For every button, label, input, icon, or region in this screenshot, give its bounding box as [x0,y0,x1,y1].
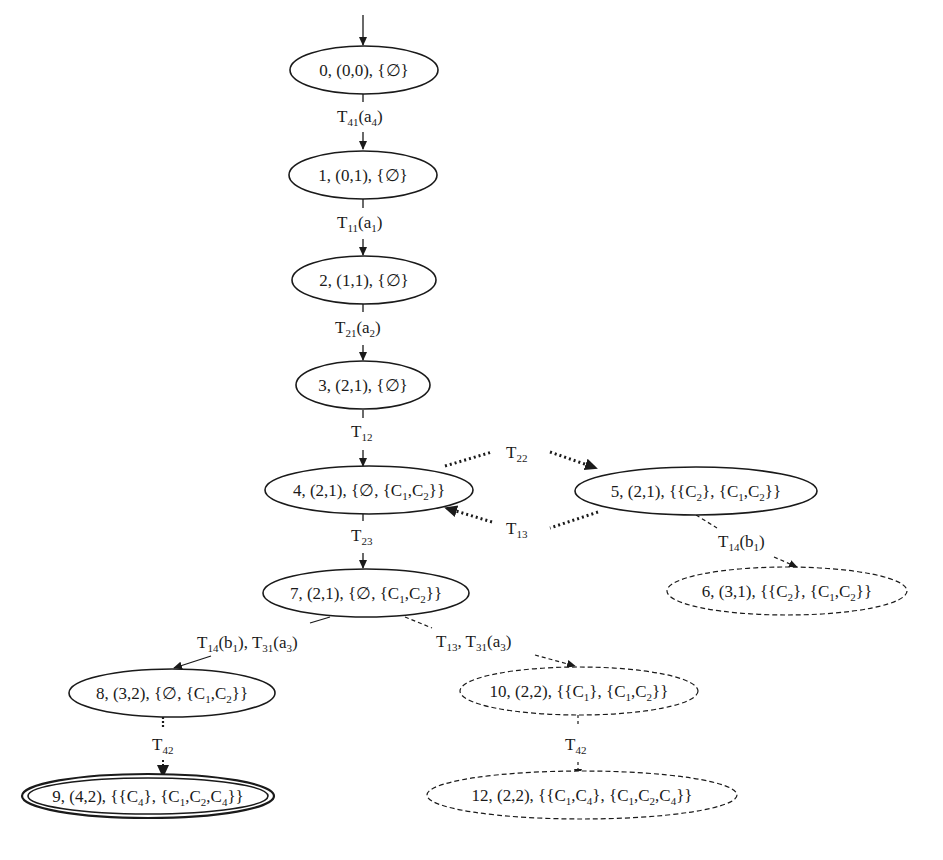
node-12: 12, (2,2), {{C1,C4}, {C1,C2,C4}} [427,771,737,819]
edge-7-10: T13, T31(a3) [405,617,575,666]
svg-text:T13, T31(a3): T13, T31(a3) [436,632,511,653]
svg-text:8, (3,2), {∅, {C1,C2}}: 8, (3,2), {∅, {C1,C2}} [96,684,248,705]
svg-text:6, (3,1), {{C2}, {C1,C2}}: 6, (3,1), {{C2}, {C1,C2}} [702,582,872,603]
svg-text:9, (4,2), {{C4}, {C1,C2,C4}}: 9, (4,2), {{C4}, {C1,C2,C4}} [52,787,243,808]
svg-text:12, (2,2), {{C1,C4}, {C1,C2,C4: 12, (2,2), {{C1,C4}, {C1,C2,C4}} [471,786,692,807]
svg-text:1, (0,1), {∅}: 1, (0,1), {∅} [318,166,407,185]
node-5: 5, (2,1), {{C2}, {C1,C2}} [575,467,817,515]
edge-3-4: T12 [351,410,372,466]
edge-7-8: T14(b1), T31(a3) [174,617,330,668]
svg-text:T14(b1): T14(b1) [718,532,765,553]
edge-5-4: T13 [446,508,598,540]
svg-text:7, (2,1), {∅, {C1,C2}}: 7, (2,1), {∅, {C1,C2}} [290,584,442,605]
edge-0-1: T41(a4) [337,94,383,149]
svg-text:2, (1,1), {∅}: 2, (1,1), {∅} [319,271,408,290]
svg-text:3, (2,1), {∅}: 3, (2,1), {∅} [318,376,407,395]
node-6: 6, (3,1), {{C2}, {C1,C2}} [667,567,907,615]
node-4: 4, (2,1), {∅, {C1,C2}} [265,466,473,514]
node-10: 10, (2,2), {{C1}, {C1,C2}} [460,667,698,715]
svg-text:5, (2,1), {{C2}, {C1,C2}}: 5, (2,1), {{C2}, {C1,C2}} [611,482,781,503]
svg-text:T12: T12 [351,422,372,443]
node-2: 2, (1,1), {∅} [292,256,436,304]
node-1: 1, (0,1), {∅} [289,151,437,199]
svg-text:T42: T42 [565,735,586,756]
svg-text:T11(a1): T11(a1) [337,213,382,234]
node-3: 3, (2,1), {∅} [296,361,430,409]
svg-text:0, (0,0), {∅}: 0, (0,0), {∅} [319,61,408,80]
edge-10-12: T42 [565,715,586,777]
svg-text:T14(b1), T31(a3): T14(b1), T31(a3) [197,633,298,654]
svg-text:T42: T42 [152,735,173,756]
edge-1-2: T11(a1) [337,199,382,255]
svg-text:T13: T13 [506,519,528,540]
node-7: 7, (2,1), {∅, {C1,C2}} [263,569,469,617]
svg-text:T23: T23 [351,526,373,547]
edge-4-7: T23 [351,514,373,568]
node-0: 0, (0,0), {∅} [290,46,438,94]
svg-text:10, (2,2), {{C1}, {C1,C2}}: 10, (2,2), {{C1}, {C1,C2}} [490,682,669,703]
state-graph: T41(a4) T11(a1) T21(a2) T12 T22 T13 T14(… [0,0,943,860]
svg-text:4, (2,1), {∅, {C1,C2}}: 4, (2,1), {∅, {C1,C2}} [293,481,445,502]
edge-4-5: T22 [445,443,596,468]
node-9: 9, (4,2), {{C4}, {C1,C2,C4}} [22,774,274,818]
svg-text:T21(a2): T21(a2) [335,318,381,339]
svg-text:T22: T22 [506,443,527,464]
edge-8-9: T42 [152,717,173,776]
node-8: 8, (3,2), {∅, {C1,C2}} [69,669,275,717]
svg-text:T41(a4): T41(a4) [337,107,383,128]
edge-5-6: T14(b1) [696,515,797,567]
edge-2-3: T21(a2) [335,304,381,360]
